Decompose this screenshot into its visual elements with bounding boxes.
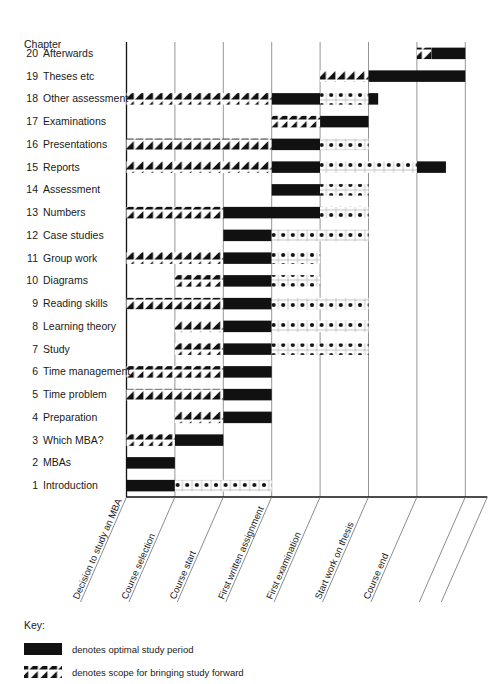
row-number-5: 5 bbox=[32, 388, 38, 400]
row-label-group-work: Group work bbox=[43, 252, 98, 264]
bar-segment-solid bbox=[223, 321, 271, 333]
bar-segment-hatch bbox=[127, 252, 224, 264]
bar-segment-solid bbox=[175, 434, 223, 446]
bar-segment-dots bbox=[272, 343, 369, 355]
chart-bars bbox=[127, 48, 466, 492]
bar-segment-dots bbox=[272, 230, 369, 242]
bar-segment-hatch bbox=[127, 93, 272, 105]
bar-segment-hatch bbox=[127, 161, 272, 173]
bar-segment-dots bbox=[272, 252, 320, 264]
row-number-4: 4 bbox=[32, 411, 38, 423]
milestone-leader-5 bbox=[323, 497, 369, 602]
row-label-diagrams: Diagrams bbox=[43, 274, 88, 286]
bar-segment-solid bbox=[417, 161, 446, 173]
row-label-reading-skills: Reading skills bbox=[43, 297, 108, 309]
bar-segment-dots bbox=[320, 93, 368, 105]
bar-segment-solid bbox=[431, 48, 465, 60]
row-number-11: 11 bbox=[27, 252, 38, 264]
bar-segment-hatch bbox=[417, 48, 432, 60]
bar-segment-dots bbox=[320, 161, 417, 173]
row-number-12: 12 bbox=[26, 229, 38, 241]
gantt-chart: 20Afterwards19Theses etc18Other assessme… bbox=[0, 0, 499, 684]
row-label-mbas: MBAs bbox=[43, 456, 71, 468]
row-label-assessment: Assessment bbox=[43, 183, 100, 195]
bar-segment-solid bbox=[223, 366, 271, 378]
milestone-leader-trailing-0 bbox=[419, 497, 465, 602]
bar-segment-hatch bbox=[127, 366, 224, 378]
bar-segment-dots bbox=[272, 275, 320, 287]
row-label-preparation: Preparation bbox=[43, 411, 97, 423]
row-label-study: Study bbox=[43, 343, 71, 355]
row-number-14: 14 bbox=[26, 183, 38, 195]
milestone-label-decision-to-study-an-mba: Decision to study an MBA bbox=[70, 496, 124, 601]
milestone-label-course-selection: Course selection bbox=[119, 532, 157, 601]
bar-segment-hatch bbox=[127, 389, 224, 401]
bar-segment-dots bbox=[272, 298, 369, 310]
milestone-leader-6 bbox=[371, 497, 417, 602]
row-labels: 20Afterwards19Theses etc18Other assessme… bbox=[26, 47, 130, 491]
bar-segment-hatch bbox=[127, 139, 272, 151]
row-label-reports: Reports bbox=[43, 161, 80, 173]
bar-segment-solid bbox=[272, 93, 320, 105]
milestone-leader-0 bbox=[81, 497, 127, 602]
bar-segment-solid bbox=[369, 93, 379, 105]
row-number-17: 17 bbox=[26, 115, 38, 127]
row-label-learning-theory: Learning theory bbox=[43, 320, 117, 332]
row-label-presentations: Presentations bbox=[43, 138, 107, 150]
row-number-16: 16 bbox=[26, 138, 38, 150]
bar-segment-solid bbox=[223, 298, 271, 310]
milestone-label-course-start: Course start bbox=[167, 549, 198, 601]
row-number-6: 6 bbox=[32, 365, 38, 377]
key-swatch-bring-forward bbox=[24, 666, 62, 678]
row-number-19: 19 bbox=[26, 70, 38, 82]
milestone-leader-4 bbox=[274, 497, 320, 602]
milestone-leader-1 bbox=[129, 497, 175, 602]
bar-segment-hatch bbox=[127, 298, 224, 310]
milestone-labels: Decision to study an MBACourse selection… bbox=[70, 496, 487, 602]
milestone-leader-trailing-1 bbox=[441, 497, 487, 602]
bar-segment-hatch bbox=[175, 412, 223, 424]
bar-segment-hatch bbox=[272, 116, 320, 128]
milestone-label-first-examination: First examination bbox=[264, 530, 303, 601]
bar-segment-dots bbox=[175, 480, 272, 492]
row-number-9: 9 bbox=[32, 297, 38, 309]
row-number-10: 10 bbox=[26, 274, 38, 286]
bar-segment-hatch bbox=[127, 207, 224, 219]
bar-segment-solid bbox=[272, 139, 320, 151]
row-number-8: 8 bbox=[32, 320, 38, 332]
bar-segment-solid bbox=[369, 70, 466, 82]
bar-segment-solid bbox=[223, 389, 271, 401]
key-title: Key: bbox=[24, 619, 45, 631]
bar-segment-solid bbox=[127, 480, 175, 492]
row-label-time-problem: Time problem bbox=[43, 388, 107, 400]
key-swatch-optimal bbox=[24, 643, 62, 655]
bar-segment-dots bbox=[320, 207, 368, 219]
bar-segment-solid bbox=[223, 343, 271, 355]
row-label-other-assessment: Other assessment bbox=[43, 92, 128, 104]
row-number-1: 1 bbox=[32, 479, 38, 491]
bar-segment-solid bbox=[223, 275, 271, 287]
bar-segment-hatch bbox=[175, 275, 223, 287]
milestone-label-start-work-on-thesis: Start work on thesis bbox=[312, 520, 356, 601]
row-label-numbers: Numbers bbox=[43, 206, 86, 218]
bar-segment-solid bbox=[272, 184, 320, 196]
bar-segment-solid bbox=[223, 207, 320, 219]
bar-segment-solid bbox=[223, 252, 271, 264]
chart-gridlines bbox=[127, 42, 466, 497]
chart-svg: 20Afterwards19Theses etc18Other assessme… bbox=[0, 0, 499, 684]
bar-segment-solid bbox=[320, 116, 368, 128]
row-label-introduction: Introduction bbox=[43, 479, 98, 491]
bar-segment-dots bbox=[272, 321, 369, 333]
bar-segment-hatch bbox=[175, 321, 223, 333]
row-number-13: 13 bbox=[26, 206, 38, 218]
bar-segment-hatch bbox=[127, 434, 175, 446]
bar-segment-solid bbox=[223, 412, 271, 424]
bar-segment-dots bbox=[320, 139, 368, 151]
milestone-leader-3 bbox=[226, 497, 272, 602]
row-label-theses-etc: Theses etc bbox=[43, 70, 94, 82]
row-label-time-management: Time management bbox=[43, 365, 130, 377]
bar-segment-solid bbox=[127, 457, 175, 469]
row-label-case-studies: Case studies bbox=[43, 229, 104, 241]
milestone-leader-2 bbox=[177, 497, 223, 602]
bar-segment-dots bbox=[320, 184, 368, 196]
